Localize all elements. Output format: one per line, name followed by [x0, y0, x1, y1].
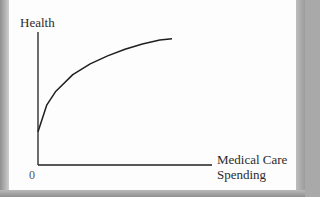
health-curve: [38, 39, 172, 132]
x-axis-label-line2: Spending: [217, 167, 287, 182]
x-axis-label: Medical Care Spending: [217, 152, 287, 182]
x-axis-label-line1: Medical Care: [217, 152, 287, 167]
y-axis-label: Health: [20, 15, 55, 30]
origin-label: 0: [29, 168, 35, 183]
